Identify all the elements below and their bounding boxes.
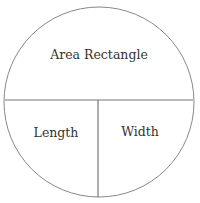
bottom-left-label: Length xyxy=(34,125,79,140)
top-label: Area Rectangle xyxy=(49,47,148,62)
bottom-right-label: Width xyxy=(121,124,159,139)
area-formula-diagram: Area Rectangle Length Width xyxy=(0,0,200,203)
outer-circle xyxy=(4,7,194,197)
